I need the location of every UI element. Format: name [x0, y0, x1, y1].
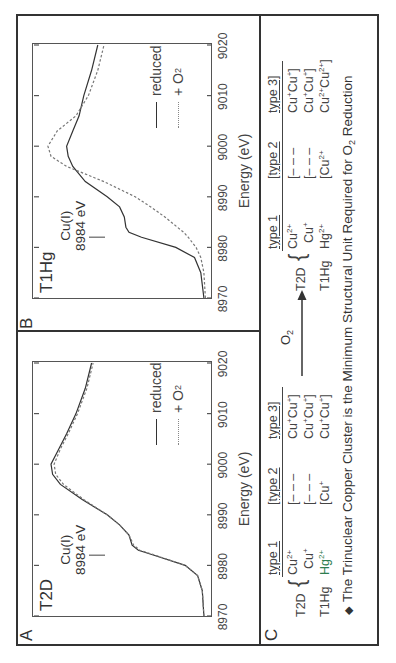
- caption-text: The Trinuclear Copper Cluster is the Min…: [340, 145, 355, 602]
- x-tick-label: 9010: [216, 83, 230, 110]
- column-header: type 3]: [266, 75, 280, 113]
- header-rule: [282, 61, 283, 251]
- legend-label: + O: [170, 390, 186, 413]
- x-tick-label: 9000: [216, 452, 230, 479]
- x-tick-label: 8980: [216, 235, 230, 262]
- panel-c-table-before: type 1[type 2type 3]{T2DCu2+[– – –Cu+Cu+…: [262, 377, 337, 617]
- type3-cell: Cu2+Cu2+]: [318, 59, 332, 113]
- arrow-label: O2: [278, 330, 293, 345]
- brace-icon: {: [284, 254, 310, 261]
- solid-line-icon: [156, 419, 157, 445]
- panel-a-sample-label: T2D: [37, 579, 57, 611]
- x-tick-label: 9010: [216, 401, 230, 428]
- legend-label: reduced: [148, 362, 164, 413]
- x-tick-label: 9020: [216, 33, 230, 60]
- type3-cell: Cu+Cu+]: [302, 68, 316, 113]
- x-tick-label: 8970: [216, 604, 230, 631]
- panel-a-xlabel: Energy (eV): [236, 452, 252, 527]
- solid-line-icon: [156, 102, 157, 128]
- panel-b-legend-o2: + O2: [170, 68, 186, 128]
- type1-cell: Hg2+: [318, 224, 332, 249]
- panel-b-legend-reduced: reduced: [148, 45, 164, 128]
- annotation-line1: Cu(I): [58, 201, 73, 251]
- type1-cell: Cu2+: [286, 550, 300, 575]
- row-sample-label: T1Hg: [318, 586, 332, 617]
- x-tick-label: 8990: [216, 184, 230, 211]
- type2-cell: [Cu+: [318, 481, 332, 505]
- header-rule: [282, 387, 283, 577]
- row-sample-label: T2D: [294, 267, 308, 291]
- caption-sub: 2: [347, 140, 357, 145]
- type3-cell: Cu+Cu+]: [286, 394, 300, 439]
- type1-cell: Cu+: [302, 548, 316, 569]
- dashed-line-icon: [178, 102, 179, 128]
- annotation-line2: 8984 eV: [73, 525, 88, 575]
- panel-a-letter: A: [17, 630, 37, 641]
- right-arrow-icon: [296, 288, 308, 378]
- annotation-line2: 8984 eV: [73, 201, 88, 251]
- brace-icon: {: [284, 580, 310, 587]
- x-tick-label: 8970: [216, 286, 230, 313]
- column-header: type 1: [266, 541, 280, 575]
- panel-a-legend-o2: + O2: [170, 385, 186, 445]
- panel-c-caption: ◆The Trinuclear Copper Cluster is the Mi…: [340, 76, 355, 615]
- panel-b-curves: [33, 42, 213, 298]
- type2-cell: [– – –: [302, 148, 316, 179]
- panel-a-annotation: Cu(I) 8984 eV: [58, 525, 88, 575]
- figure-canvas: A T2D Cu(I) 8984 eV 89708980899090009010…: [0, 0, 396, 663]
- type2-cell: [– – –: [286, 148, 300, 179]
- panel-b-xlabel: Energy (eV): [236, 134, 252, 209]
- row-sample-label: T2D: [294, 593, 308, 617]
- column-header: [type 2: [266, 467, 280, 505]
- type1-cell: Hg2+: [318, 550, 332, 575]
- column-header: type 1: [266, 215, 280, 249]
- type2-cell: [– – –: [302, 474, 316, 505]
- panel-b-sample-label: T1Hg: [37, 251, 57, 293]
- legend-label: reduced: [148, 45, 164, 96]
- panel-a-legend-reduced: reduced: [148, 362, 164, 445]
- arrow-label-sub: 2: [285, 330, 295, 335]
- panel-c-table-after: type 1[type 2type 3]{T2DCu2+[– – –Cu+Cu+…: [262, 21, 337, 291]
- type2-cell: [– – –: [286, 474, 300, 505]
- caption-end: Reduction: [340, 76, 355, 141]
- diamond-bullet-icon: ◆: [342, 607, 354, 615]
- annotation-line1: Cu(I): [58, 525, 73, 575]
- x-tick-label: 8990: [216, 502, 230, 529]
- type3-cell: Cu+Cu+]: [286, 68, 300, 113]
- panel-b-letter: B: [17, 318, 37, 329]
- arrow-label-text: O: [278, 335, 293, 345]
- type1-cell: Cu+: [302, 222, 316, 243]
- type3-cell: Cu+Cu+]: [302, 394, 316, 439]
- x-tick-label: 9020: [216, 351, 230, 378]
- dashed-line-icon: [178, 419, 179, 445]
- legend-label: + O: [170, 73, 186, 96]
- column-header: type 3]: [266, 401, 280, 439]
- column-header: [type 2: [266, 141, 280, 179]
- type3-cell: Cu+Cu+]: [318, 394, 332, 439]
- type2-cell: [Cu2+: [318, 150, 332, 179]
- panel-divider-vertical: [16, 331, 261, 333]
- type1-cell: Cu2+: [286, 224, 300, 249]
- x-tick-label: 9000: [216, 134, 230, 161]
- panel-a-curves: [33, 360, 213, 616]
- panel-b-annotation: Cu(I) 8984 eV: [58, 201, 88, 251]
- panel-c-letter: C: [262, 629, 282, 641]
- row-sample-label: T1Hg: [318, 260, 332, 291]
- x-tick-label: 8980: [216, 553, 230, 580]
